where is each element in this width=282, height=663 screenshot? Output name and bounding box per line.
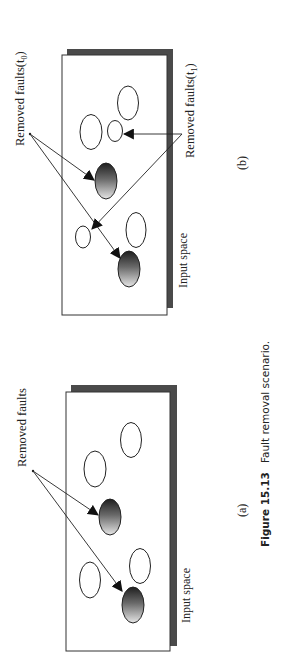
removed-fault-ellipse	[99, 499, 121, 535]
open-fault-ellipse	[121, 423, 142, 458]
figure-canvas: Removed faults(t0) Removed faults(t1) In…	[0, 0, 282, 663]
removed-fault-t1-circle	[76, 226, 91, 248]
removed-fault-t1-circle	[108, 121, 123, 142]
open-fault-ellipse	[80, 115, 102, 150]
open-fault-ellipse	[126, 213, 146, 248]
sub-label-b: (b)	[235, 156, 249, 170]
sub-label-a: (a)	[235, 504, 249, 517]
arrow-origin-dot	[32, 470, 34, 472]
panel-b: Removed faults(t0) Removed faults(t1) In…	[13, 49, 249, 315]
label-removed-faults: Removed faults	[15, 388, 29, 467]
label-removed-faults-t0: Removed faults(t0)	[13, 51, 29, 146]
removed-fault-t0-ellipse	[118, 251, 140, 287]
figure-caption-text: Fault removal scenario.	[259, 341, 271, 463]
removed-fault-ellipse	[122, 587, 144, 623]
open-fault-ellipse	[130, 549, 151, 584]
open-fault-ellipse	[84, 451, 106, 487]
label-input-space-a: Input space	[179, 568, 193, 623]
label-input-space-b: Input space	[176, 233, 190, 288]
open-fault-ellipse	[118, 86, 139, 120]
arrow-origin-dot	[29, 133, 31, 135]
figure-number: Figure 15.13	[259, 472, 271, 547]
figure-caption: Figure 15.13Fault removal scenario.	[259, 341, 271, 547]
label-removed-faults-t1: Removed faults(t1)	[183, 63, 199, 158]
removed-fault-t0-ellipse	[95, 163, 117, 199]
panel-a: Removed faults Input space (a)	[15, 385, 249, 651]
open-fault-ellipse	[80, 562, 101, 598]
